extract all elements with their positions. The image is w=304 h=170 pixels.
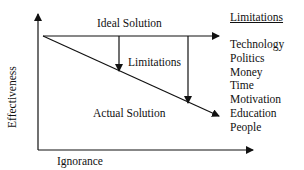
actual-solution-line xyxy=(43,36,219,116)
limitations-title: Limitations xyxy=(230,11,283,24)
limitation-item: Money xyxy=(230,66,284,80)
ideal-solution-label: Ideal Solution xyxy=(97,17,162,30)
actual-solution-label: Actual Solution xyxy=(93,107,166,120)
x-axis-label: Ignorance xyxy=(57,155,103,168)
limitation-item: Education xyxy=(230,107,284,121)
limitation-item: Politics xyxy=(230,52,284,66)
limitation-item: Time xyxy=(230,79,284,93)
limitations-gap-label: Limitations xyxy=(128,56,181,69)
limitation-item: People xyxy=(230,121,284,135)
diagram: Ideal Solution Limitations Actual Soluti… xyxy=(0,0,304,170)
limitations-list: Technology Politics Money Time Motivatio… xyxy=(230,38,284,135)
limitation-item: Technology xyxy=(230,38,284,52)
y-axis-label: Effectiveness xyxy=(6,66,18,128)
limitation-item: Motivation xyxy=(230,93,284,107)
